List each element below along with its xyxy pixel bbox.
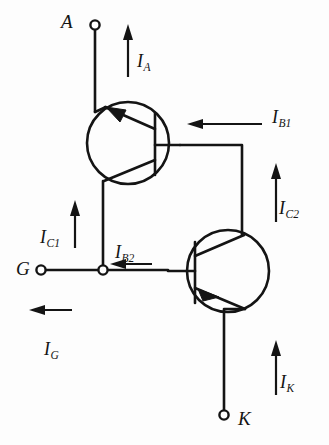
current-subscript-ia: A: [144, 61, 151, 73]
wire-q2-collector-junction: [242, 234, 244, 235]
current-label-ig: IG: [44, 340, 58, 358]
current-subscript-ib2: B2: [122, 252, 135, 264]
transistor-q1-emitter-arrow: [106, 107, 126, 122]
transistor-q2-emitter-arrow: [198, 289, 219, 301]
current-arrow-ib1: [187, 119, 262, 129]
current-subscript-ig: G: [51, 349, 59, 361]
current-symbol-ig: I: [44, 339, 50, 359]
current-label-ib2: IB2: [115, 243, 134, 261]
cathode-terminal-label: K: [238, 409, 251, 428]
gate-junction-node: [98, 265, 107, 274]
current-arrow-ig: [29, 305, 72, 315]
current-label-ib1: IB1: [272, 108, 291, 126]
anode-terminal-label: A: [61, 12, 73, 31]
current-subscript-ik: K: [287, 382, 295, 394]
wire-q1-base-to-q2-collector: [180, 145, 242, 234]
current-subscript-ic2: C2: [286, 208, 299, 220]
current-symbol-ik: I: [280, 372, 286, 392]
current-arrow-ic1: [70, 200, 80, 248]
current-arrow-ia: [123, 24, 133, 77]
current-symbol-ia: I: [137, 51, 143, 71]
current-symbol-ib1: I: [272, 107, 278, 127]
current-label-ik: IK: [280, 373, 294, 391]
cathode-terminal-node[interactable]: [219, 410, 228, 419]
transistor-q1-pnp: [87, 102, 180, 184]
current-label-ic1: IC1: [40, 228, 59, 246]
current-subscript-ic1: C1: [47, 237, 60, 249]
circuit-diagram: A G K IA IB1 IC2 IC1 IB2 IG IK: [0, 0, 329, 445]
current-subscript-ib1: B1: [279, 117, 292, 129]
gate-terminal-node[interactable]: [36, 265, 45, 274]
current-symbol-ic1: I: [40, 227, 46, 247]
current-symbol-ib2: I: [115, 242, 121, 262]
current-label-ic2: IC2: [279, 199, 298, 217]
transistor-q2-npn: [168, 230, 269, 312]
current-symbol-ic2: I: [279, 198, 285, 218]
gate-terminal-label: G: [16, 259, 30, 278]
wire-q2-emitter-to-cathode: [224, 309, 245, 411]
current-label-ia: IA: [137, 52, 150, 70]
anode-terminal-node[interactable]: [90, 20, 99, 29]
